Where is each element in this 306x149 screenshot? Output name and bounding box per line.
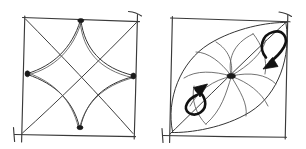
cusp-node-top [78, 19, 84, 23]
figure-root [0, 0, 306, 149]
astroid-arc-bottom-left [28, 75, 80, 128]
left-corner-tick-tr [129, 12, 142, 17]
astroid-arc-top-right-echo [80, 23, 132, 78]
right-corner-tick-tr [279, 12, 292, 17]
left-square-left-edge [22, 16, 25, 142]
fan-curve-10 [216, 42, 232, 75]
left-corner-tick-bl [14, 128, 15, 142]
left-square-bottom-edge [15, 135, 136, 137]
cusp-node-right [131, 73, 136, 79]
cusp-node-bottom [77, 126, 83, 130]
astroid-arc-top-right [81, 21, 134, 76]
left-diagonals [23, 19, 137, 134]
left-panel [14, 12, 142, 143]
right-square-bottom-edge [163, 136, 287, 138]
fan-curve-3 [184, 72, 231, 78]
astroid-arc-bottom-left-echo [27, 73, 78, 128]
left-diagonal-tl-br [26, 19, 134, 134]
right-panel [162, 12, 292, 143]
right-square-top-edge [171, 18, 291, 22]
rotation-arrow-upper-loop [262, 31, 286, 62]
fan-curve-5 [206, 77, 231, 124]
center-node [227, 73, 235, 78]
cusp-node-left [25, 71, 30, 77]
fan-curve-6 [232, 77, 247, 116]
sketch-canvas [0, 0, 306, 149]
right-corner-tick-bl [162, 129, 163, 143]
